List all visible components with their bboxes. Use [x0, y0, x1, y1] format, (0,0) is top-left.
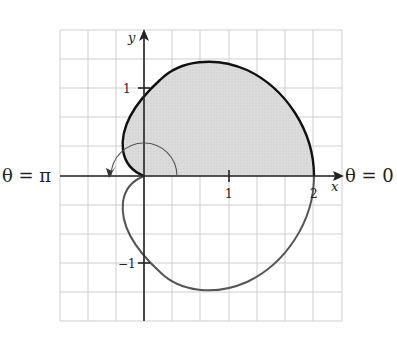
y-tick-1: 1	[123, 82, 131, 96]
x-axis-label: x	[331, 179, 339, 194]
x-tick-2: 2	[310, 187, 318, 201]
theta-pi-label: θ = π	[2, 165, 51, 186]
x-tick-1: 1	[225, 187, 233, 201]
y-tick-neg1: −1	[118, 257, 136, 271]
theta-zero-label: θ = 0	[345, 165, 394, 186]
y-axis-label: y	[127, 30, 136, 45]
cardioid-diagram: y x 1 2 1 −1 θ = π θ = 0	[0, 0, 397, 338]
